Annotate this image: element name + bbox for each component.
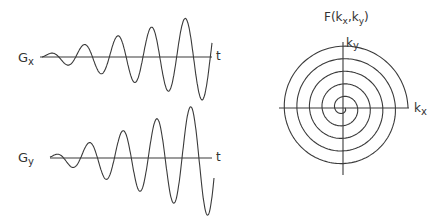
spiral-trajectory-diagram: Gx t Gy t F(kx,ky) ky kx	[0, 0, 446, 218]
gy-t-label: t	[216, 150, 221, 164]
gy-waveform-panel: Gy t	[18, 107, 221, 215]
gx-waveform-panel: Gx t	[18, 18, 221, 100]
gx-waveform	[42, 18, 212, 100]
gy-waveform	[50, 107, 214, 215]
kspace-title: F(kx,ky)	[324, 10, 369, 26]
kspace-panel: F(kx,ky) ky kx	[279, 10, 427, 175]
ky-label: ky	[346, 36, 359, 51]
gy-label: Gy	[18, 150, 34, 167]
gx-label: Gx	[18, 50, 34, 67]
spiral-trajectory	[284, 46, 408, 164]
gx-t-label: t	[216, 49, 221, 63]
kx-label: kx	[414, 101, 427, 117]
